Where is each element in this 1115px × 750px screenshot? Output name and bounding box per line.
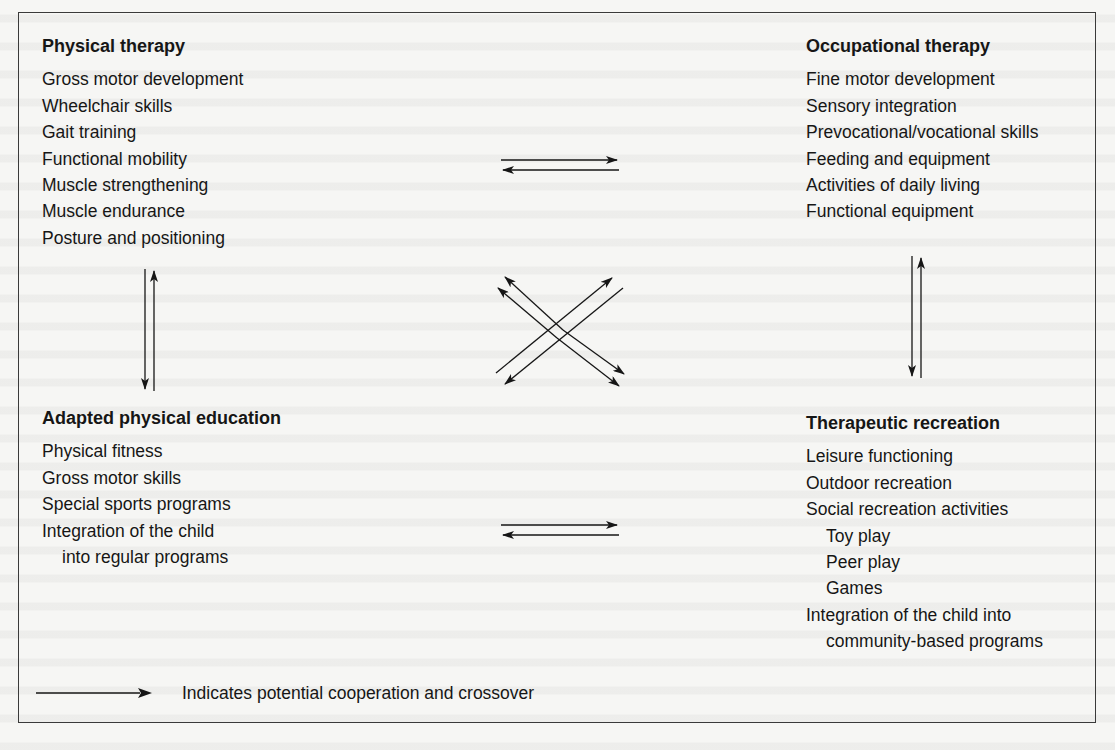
list-item: Social recreation activities <box>806 496 1043 522</box>
list-item: Integration of the child <box>42 518 281 544</box>
block-title: Physical therapy <box>42 33 243 59</box>
list-item: Muscle endurance <box>42 198 243 224</box>
legend: Indicates potential cooperation and cros… <box>36 678 534 708</box>
block-therapeutic-recreation: Therapeutic recreation Leisure functioni… <box>806 410 1043 655</box>
list-item: Feeding and equipment <box>806 146 1038 172</box>
legend-text: Indicates potential cooperation and cros… <box>182 683 534 704</box>
list-item: Integration of the child into <box>806 602 1043 628</box>
list-item: Toy play <box>806 523 1043 549</box>
list-item: Outdoor recreation <box>806 470 1043 496</box>
right-arrow-icon <box>36 686 152 700</box>
list-item: Gross motor development <box>42 66 243 92</box>
list-item: community-based programs <box>806 628 1043 654</box>
list-item: Peer play <box>806 549 1043 575</box>
block-title: Adapted physical education <box>42 405 281 431</box>
list-item: Gross motor skills <box>42 465 281 491</box>
list-item: into regular programs <box>42 544 281 570</box>
block-occupational-therapy: Occupational therapy Fine motor developm… <box>806 33 1038 225</box>
list-item: Posture and positioning <box>42 225 243 251</box>
block-physical-therapy: Physical therapy Gross motor development… <box>42 33 243 251</box>
block-title: Therapeutic recreation <box>806 410 1043 436</box>
list-item: Gait training <box>42 119 243 145</box>
list-item: Fine motor development <box>806 66 1038 92</box>
list-item: Activities of daily living <box>806 172 1038 198</box>
list-item: Games <box>806 575 1043 601</box>
list-item: Sensory integration <box>806 93 1038 119</box>
list-item: Functional mobility <box>42 146 243 172</box>
list-item: Prevocational/vocational skills <box>806 119 1038 145</box>
list-item: Leisure functioning <box>806 443 1043 469</box>
list-item: Functional equipment <box>806 198 1038 224</box>
list-item: Special sports programs <box>42 491 281 517</box>
list-item: Muscle strengthening <box>42 172 243 198</box>
block-title: Occupational therapy <box>806 33 1038 59</box>
list-item: Wheelchair skills <box>42 93 243 119</box>
block-adapted-physical-education: Adapted physical education Physical fitn… <box>42 405 281 570</box>
list-item: Physical fitness <box>42 438 281 464</box>
